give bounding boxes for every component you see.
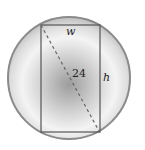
diagram-canvas: w h 24 (0, 0, 145, 150)
height-label: h (103, 71, 110, 84)
diagonal-label: 24 (72, 67, 86, 80)
width-label: w (66, 25, 76, 38)
